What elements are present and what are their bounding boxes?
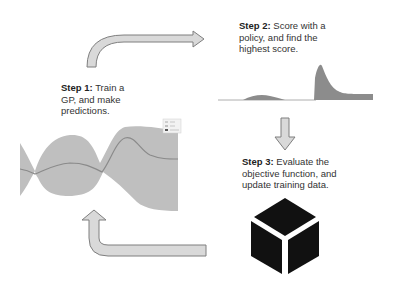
arrow-step3-to-step1 bbox=[82, 210, 206, 256]
acquisition-score-chart bbox=[218, 65, 373, 100]
step1-label: Step 1: bbox=[61, 82, 93, 93]
step3-caption: Step 3: Evaluate the objective function,… bbox=[242, 156, 337, 191]
step3-line2: objective function, and bbox=[242, 168, 337, 179]
arrow-step1-to-step2 bbox=[87, 31, 204, 67]
step2-label: Step 2: bbox=[239, 20, 271, 31]
step3-label: Step 3: bbox=[242, 156, 274, 167]
step1-caption: Step 1: Train a GP, and make predictions… bbox=[61, 82, 124, 117]
step2-line2: policy, and find the bbox=[239, 32, 318, 43]
step3-line1: Evaluate the bbox=[276, 156, 329, 167]
step1-line2: GP, and make bbox=[61, 94, 121, 105]
uncertainty-band bbox=[20, 126, 178, 211]
diagram-canvas bbox=[0, 0, 403, 281]
step1-line3: predictions. bbox=[61, 105, 110, 116]
acquisition-low-hump bbox=[243, 95, 285, 100]
arrow-step2-to-step3 bbox=[275, 118, 295, 150]
step2-line3: highest score. bbox=[239, 43, 298, 54]
step3-line3: update training data. bbox=[242, 179, 329, 190]
acquisition-peak bbox=[314, 65, 373, 100]
step1-line1: Train a bbox=[95, 82, 124, 93]
step2-caption: Step 2: Score with a policy, and find th… bbox=[239, 20, 326, 55]
gp-prediction-chart bbox=[20, 119, 181, 211]
step2-line1: Score with a bbox=[273, 20, 325, 31]
objective-function-cube-icon bbox=[251, 198, 319, 274]
chart-legend bbox=[163, 119, 181, 133]
